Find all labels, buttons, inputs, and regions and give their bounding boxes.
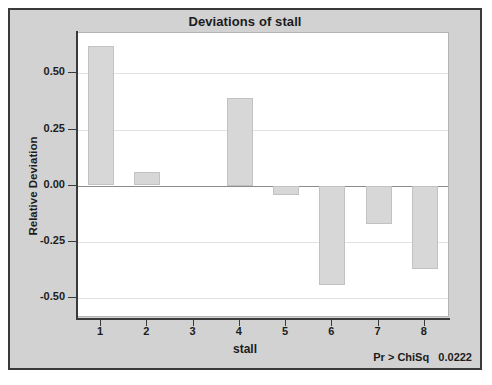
y-tick-mark [68, 72, 76, 73]
y-tick-label: -0.25 [40, 234, 65, 246]
bar-5[interactable] [273, 186, 299, 195]
gridline [78, 130, 448, 131]
x-tick-mark [100, 320, 101, 326]
x-tick-mark [239, 320, 240, 326]
gridline [78, 242, 448, 243]
x-tick-mark [193, 320, 194, 326]
chi-square-p-value-annotation: Pr > ChiSq 0.0222 [373, 351, 472, 363]
gridline [78, 298, 448, 299]
bar-1[interactable] [88, 46, 114, 185]
x-tick-label-1: 1 [97, 325, 103, 337]
y-axis-title: Relative Deviation [27, 111, 39, 261]
y-tick-mark [68, 297, 76, 298]
x-tick-mark [285, 320, 286, 326]
bar-2[interactable] [134, 172, 160, 185]
y-tick-mark [68, 185, 76, 186]
zero-line [78, 186, 448, 187]
x-tick-mark [146, 320, 147, 326]
chart-title: Deviations of stall [10, 14, 480, 29]
x-tick-mark [331, 320, 332, 326]
y-axis-line [76, 31, 78, 318]
chart-figure: Deviations of stall 0.500.250.00-0.25-0.… [8, 8, 482, 370]
y-tick-mark [68, 129, 76, 130]
bar-6[interactable] [319, 186, 345, 285]
x-tick-label-7: 7 [375, 325, 381, 337]
bar-4[interactable] [227, 98, 253, 186]
gridline [78, 73, 448, 74]
bar-7[interactable] [366, 186, 392, 224]
x-tick-mark [424, 320, 425, 326]
x-tick-label-8: 8 [421, 325, 427, 337]
x-tick-label-6: 6 [328, 325, 334, 337]
x-tick-label-2: 2 [143, 325, 149, 337]
bar-8[interactable] [412, 186, 438, 269]
x-axis-line [76, 318, 450, 320]
x-tick-label-5: 5 [282, 325, 288, 337]
x-tick-label-4: 4 [236, 325, 242, 337]
y-tick-label: 0.50 [44, 65, 65, 77]
y-tick-label: -0.50 [40, 290, 65, 302]
y-tick-mark [68, 241, 76, 242]
y-tick-label: 0.25 [44, 122, 65, 134]
x-tick-mark [378, 320, 379, 326]
plot-area [77, 32, 449, 317]
y-tick-label: 0.00 [44, 178, 65, 190]
x-tick-label-3: 3 [190, 325, 196, 337]
